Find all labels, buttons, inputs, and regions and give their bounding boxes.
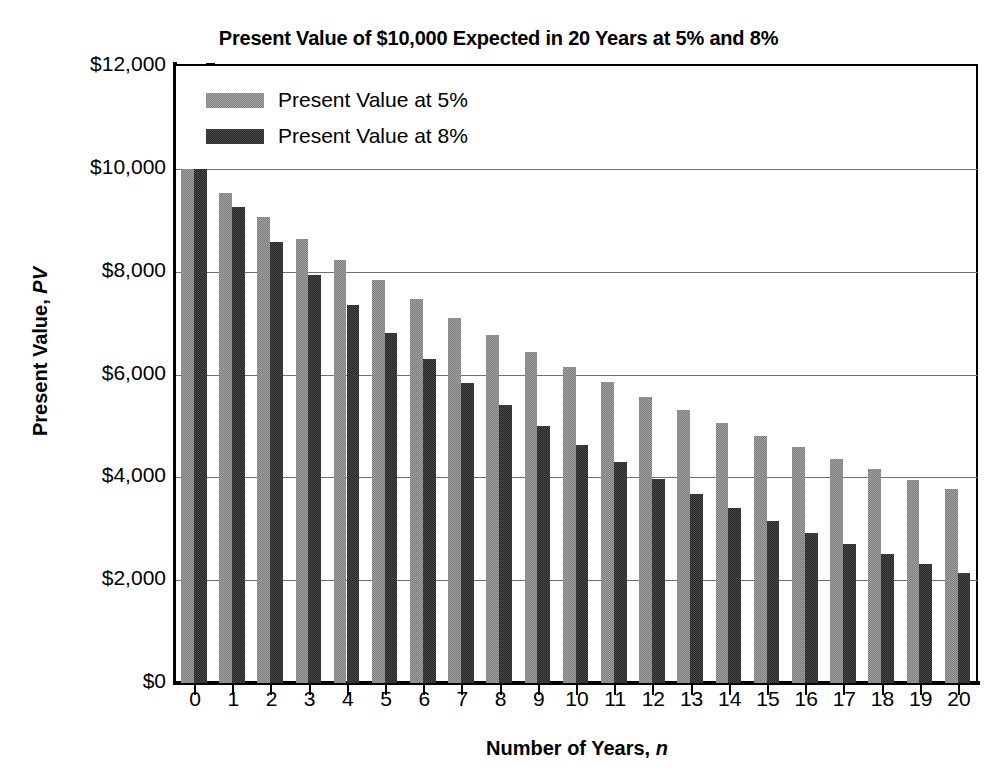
- bar-pv5-year-12[interactable]: [639, 397, 652, 683]
- bar-group: [558, 66, 596, 683]
- bar-group: [863, 66, 901, 683]
- legend-label-pv5: Present Value at 5%: [278, 88, 468, 112]
- x-tick-mark: [309, 685, 311, 695]
- x-axis-title: Number of Years, n: [176, 737, 978, 760]
- x-tick-mark: [500, 685, 502, 695]
- chart-title: Present Value of $10,000 Expected in 20 …: [0, 27, 997, 50]
- x-tick-mark: [385, 685, 387, 695]
- bar-group: [787, 66, 825, 683]
- x-tick-mark: [805, 685, 807, 695]
- bar-pv8-year-5[interactable]: [385, 333, 398, 683]
- bar-group: [825, 66, 863, 683]
- bar-pv5-year-11[interactable]: [601, 382, 614, 683]
- bar-pv8-year-16[interactable]: [805, 533, 818, 683]
- bar-pv5-year-20[interactable]: [945, 489, 958, 683]
- bar-pv5-year-15[interactable]: [754, 436, 767, 683]
- x-tick-mark: [576, 685, 578, 695]
- legend-label-pv8: Present Value at 8%: [278, 124, 468, 148]
- x-tick-mark: [194, 685, 196, 695]
- y-tick-label: $4,000: [46, 463, 166, 487]
- x-tick-mark: [270, 685, 272, 695]
- x-tick-mark: [538, 685, 540, 695]
- x-tick-mark: [232, 685, 234, 695]
- bar-pv8-year-7[interactable]: [461, 383, 474, 683]
- bar-pv8-year-15[interactable]: [767, 521, 780, 683]
- bar-group: [940, 66, 978, 683]
- bar-pv5-year-1[interactable]: [219, 193, 232, 683]
- x-tick-mark: [614, 685, 616, 695]
- legend-item-1[interactable]: Present Value at 8%: [206, 123, 468, 149]
- bar-pv5-year-14[interactable]: [716, 423, 729, 683]
- bar-pv5-year-19[interactable]: [907, 480, 920, 683]
- bar-group: [596, 66, 634, 683]
- bar-pv8-year-8[interactable]: [499, 405, 512, 683]
- bar-group: [634, 66, 672, 683]
- bar-pv5-year-17[interactable]: [830, 459, 843, 683]
- bar-pv5-year-8[interactable]: [486, 335, 499, 683]
- chart-container: Present Value of $10,000 Expected in 20 …: [0, 0, 997, 779]
- y-tick-label: $8,000: [46, 258, 166, 282]
- bar-pv5-year-7[interactable]: [448, 318, 461, 683]
- bar-pv5-year-10[interactable]: [563, 367, 576, 683]
- bar-pv8-year-1[interactable]: [232, 207, 245, 683]
- bar-pv5-year-0[interactable]: [181, 169, 194, 683]
- bar-pv5-year-18[interactable]: [868, 469, 881, 683]
- x-tick-mark: [920, 685, 922, 695]
- bar-pv8-year-18[interactable]: [881, 554, 894, 683]
- bar-pv5-year-2[interactable]: [257, 217, 270, 683]
- bar-pv5-year-5[interactable]: [372, 280, 385, 683]
- bar-pv8-year-10[interactable]: [576, 445, 589, 683]
- bar-pv5-year-3[interactable]: [296, 239, 309, 683]
- bar-pv5-year-9[interactable]: [525, 352, 538, 683]
- bar-group: [711, 66, 749, 683]
- bar-pv8-year-14[interactable]: [728, 508, 741, 683]
- bar-pv8-year-2[interactable]: [270, 242, 283, 683]
- legend: Present Value at 5% Present Value at 8%: [206, 87, 468, 159]
- legend-swatch-pv8-icon: [206, 129, 264, 144]
- bar-group: [902, 66, 940, 683]
- bar-group: [520, 66, 558, 683]
- legend-item-0[interactable]: Present Value at 5%: [206, 87, 468, 113]
- x-axis-title-text: Number of Years,: [486, 737, 656, 759]
- x-axis-title-symbol: n: [656, 737, 668, 759]
- bar-pv8-year-19[interactable]: [919, 564, 932, 683]
- bar-pv8-year-12[interactable]: [652, 479, 665, 683]
- legend-swatch-pv5-icon: [206, 93, 264, 108]
- plot-area: Present Value at 5% Present Value at 8%: [176, 64, 978, 681]
- x-tick-mark: [691, 685, 693, 695]
- x-tick-mark: [423, 685, 425, 695]
- y-axis-tick-labels: $12,000$10,000$8,000$6,000$4,000$2,000$0: [40, 64, 166, 681]
- x-tick-mark: [767, 685, 769, 695]
- bar-pv5-year-13[interactable]: [677, 410, 690, 683]
- y-tick-label: $10,000: [46, 155, 166, 179]
- bar-pv8-year-11[interactable]: [614, 462, 627, 683]
- bar-pv8-year-13[interactable]: [690, 494, 703, 683]
- bar-pv8-year-9[interactable]: [537, 426, 550, 683]
- bar-pv8-year-20[interactable]: [958, 573, 971, 683]
- y-tick-label: $12,000: [46, 52, 166, 76]
- x-tick-mark: [958, 685, 960, 695]
- x-tick-mark: [652, 685, 654, 695]
- bar-pv8-year-3[interactable]: [308, 275, 321, 683]
- bar-group: [749, 66, 787, 683]
- x-tick-mark: [461, 685, 463, 695]
- bar-group: [482, 66, 520, 683]
- bar-pv5-year-16[interactable]: [792, 447, 805, 683]
- y-tick-label: $0: [46, 669, 166, 693]
- x-tick-mark: [347, 685, 349, 695]
- bar-group: [672, 66, 710, 683]
- x-tick-mark: [729, 685, 731, 695]
- x-tick-mark: [843, 685, 845, 695]
- y-tick-label: $6,000: [46, 361, 166, 385]
- bar-pv5-year-6[interactable]: [410, 299, 423, 683]
- y-tick-label: $2,000: [46, 566, 166, 590]
- x-tick-mark: [882, 685, 884, 695]
- bar-pv8-year-0[interactable]: [194, 169, 207, 683]
- bar-pv8-year-17[interactable]: [843, 544, 856, 683]
- bar-pv5-year-4[interactable]: [334, 260, 347, 683]
- bar-pv8-year-4[interactable]: [347, 305, 360, 683]
- bar-pv8-year-6[interactable]: [423, 359, 436, 683]
